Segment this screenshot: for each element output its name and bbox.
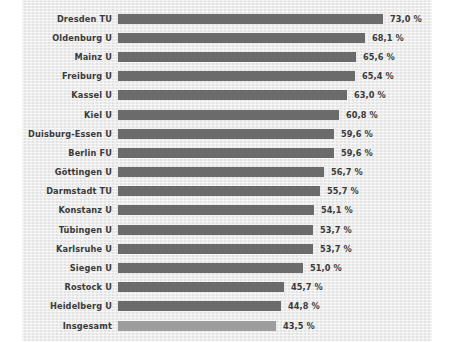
bar-row: Göttingen U56,7 %: [0, 163, 451, 182]
bar-value-label: 53,7 %: [320, 244, 352, 254]
bar-row: Rostock U45,7 %: [0, 278, 451, 297]
bar-row: Oldenburg U68,1 %: [0, 28, 451, 47]
bar-row-label: Duisburg-Essen U: [28, 129, 112, 139]
bar-fill: [118, 14, 383, 24]
bar-row: Duisburg-Essen U59,6 %: [0, 124, 451, 143]
bar-fill-total: [118, 321, 276, 331]
bar-track: [118, 244, 313, 254]
bar-row-label: Konstanz U: [58, 205, 112, 215]
bar-track: [118, 186, 320, 196]
bar-value-label: 44,8 %: [288, 301, 320, 311]
bar-row: Darmstadt TU55,7 %: [0, 182, 451, 201]
bar-row-label: Karlsruhe U: [56, 244, 112, 254]
bar-chart-figure: Dresden TU73,0 %Oldenburg U68,1 %Mainz U…: [0, 0, 451, 342]
bar-row-label: Göttingen U: [55, 167, 112, 177]
bar-row: Karlsruhe U53,7 %: [0, 239, 451, 258]
bar-value-label: 73,0 %: [390, 14, 422, 24]
bar-track: [118, 33, 365, 43]
bar-value-label: 68,1 %: [372, 33, 404, 43]
bar-row-label: Siegen U: [70, 263, 112, 273]
bar-row: Dresden TU73,0 %: [0, 9, 451, 28]
bar-fill: [118, 301, 281, 311]
bar-row-label: Dresden TU: [57, 14, 112, 24]
bar-value-label: 59,6 %: [341, 148, 373, 158]
bar-value-label: 45,7 %: [291, 282, 323, 292]
bar-fill: [118, 263, 303, 273]
bar-fill: [118, 244, 313, 254]
bar-fill: [118, 148, 334, 158]
bar-row-label: Darmstadt TU: [46, 186, 112, 196]
bar-value-label: 65,6 %: [363, 52, 395, 62]
bar-value-label: 63,0 %: [354, 90, 386, 100]
bar-track: [118, 263, 303, 273]
bar-row-label: Rostock U: [65, 282, 113, 292]
bar-value-label: 59,6 %: [341, 129, 373, 139]
bar-row: Insgesamt43,5 %: [0, 316, 451, 335]
bar-row-label: Kassel U: [71, 90, 112, 100]
bar-row-label: Oldenburg U: [52, 33, 112, 43]
bar-row-label: Berlin FU: [68, 148, 112, 158]
bar-row-label: Mainz U: [74, 52, 112, 62]
bar-fill: [118, 71, 355, 81]
bar-fill: [118, 33, 365, 43]
bar-row: Berlin FU59,6 %: [0, 143, 451, 162]
bar-row: Tübingen U53,7 %: [0, 220, 451, 239]
bar-row: Konstanz U54,1 %: [0, 201, 451, 220]
bar-fill: [118, 282, 284, 292]
bar-row-label: Insgesamt: [63, 321, 112, 331]
bar-fill: [118, 205, 314, 215]
bar-row: Kassel U63,0 %: [0, 86, 451, 105]
bar-track: [118, 14, 383, 24]
bar-value-label: 54,1 %: [321, 205, 353, 215]
bar-row: Heidelberg U44,8 %: [0, 297, 451, 316]
bar-value-label: 43,5 %: [283, 321, 315, 331]
bar-track: [118, 321, 276, 331]
bar-track: [118, 205, 314, 215]
bar-track: [118, 71, 355, 81]
bar-row-label: Kiel U: [84, 110, 112, 120]
bar-value-label: 51,0 %: [310, 263, 342, 273]
bar-row: Freiburg U65,4 %: [0, 67, 451, 86]
bar-track: [118, 52, 356, 62]
bar-track: [118, 90, 347, 100]
bar-row: Kiel U60,8 %: [0, 105, 451, 124]
bar-fill: [118, 167, 324, 177]
bar-value-label: 65,4 %: [362, 71, 394, 81]
bar-value-label: 55,7 %: [327, 186, 359, 196]
bar-row: Siegen U51,0 %: [0, 258, 451, 277]
bar-track: [118, 148, 334, 158]
bar-track: [118, 282, 284, 292]
bar-row-label: Freiburg U: [62, 71, 112, 81]
bar-fill: [118, 129, 334, 139]
bar-fill: [118, 186, 320, 196]
bar-value-label: 53,7 %: [320, 225, 352, 235]
bar-track: [118, 225, 313, 235]
bar-row-label: Heidelberg U: [50, 301, 112, 311]
bar-rows-container: Dresden TU73,0 %Oldenburg U68,1 %Mainz U…: [0, 9, 451, 339]
bar-row: Mainz U65,6 %: [0, 47, 451, 66]
bar-track: [118, 129, 334, 139]
bar-fill: [118, 225, 313, 235]
bar-track: [118, 301, 281, 311]
bar-fill: [118, 90, 347, 100]
bar-track: [118, 167, 324, 177]
bar-fill: [118, 110, 339, 120]
bar-fill: [118, 52, 356, 62]
bar-value-label: 60,8 %: [346, 110, 378, 120]
bar-row-label: Tübingen U: [59, 225, 112, 235]
bar-track: [118, 110, 339, 120]
bar-value-label: 56,7 %: [331, 167, 363, 177]
